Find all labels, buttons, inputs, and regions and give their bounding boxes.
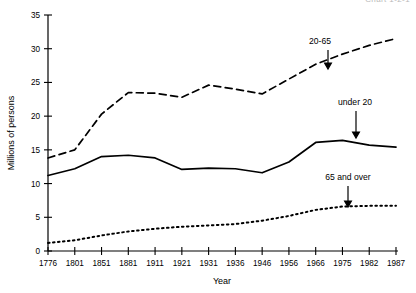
x-axis-tick-label: 1966 <box>307 259 326 268</box>
series-line-under-20 <box>48 140 396 175</box>
line-chart: 05101520253035 1776180118511881191119211… <box>0 0 416 293</box>
x-axis-tick-label: 1851 <box>92 259 111 268</box>
x-axis-tick-label: 1975 <box>333 259 352 268</box>
chart-container: Chart 1-2-1 05101520253035 1776180118511… <box>0 0 416 293</box>
x-axis-tick-label: 1801 <box>66 259 85 268</box>
x-axis-tick-label: 1911 <box>146 259 164 268</box>
x-axis-title: Year <box>213 276 231 286</box>
x-axis-tick-label: 1776 <box>39 259 58 268</box>
y-axis-tick-label: 5 <box>35 213 40 222</box>
x-axis-tick-label: 1921 <box>173 259 192 268</box>
y-axis-tick-label: 0 <box>35 247 40 256</box>
y-axis: 05101520253035 <box>31 11 52 256</box>
annotations-layer: 20-65under 2065 and over <box>309 36 372 207</box>
cut-off-caption: Chart 1-2-1 <box>365 0 410 2</box>
x-axis-tick-label: 1931 <box>200 259 219 268</box>
annotation-label-65-and-over: 65 and over <box>325 172 371 182</box>
annotation-label-under-20: under 20 <box>338 97 372 107</box>
y-axis-tick-label: 15 <box>31 146 41 155</box>
y-axis-tick-label: 25 <box>31 78 41 87</box>
x-axis-tick-label: 1982 <box>360 259 379 268</box>
x-axis-tick-label: 1936 <box>226 259 245 268</box>
series-line-65-and-over <box>48 206 396 243</box>
y-axis-tick-label: 20 <box>31 112 41 121</box>
y-axis-tick-label: 10 <box>31 180 41 189</box>
axis-titles: YearMillions of persons <box>6 95 231 286</box>
annotation-arrow-65-and-over <box>345 186 352 207</box>
annotation-arrow-under-20 <box>353 111 360 138</box>
x-axis-tick-label: 1956 <box>280 259 299 268</box>
y-axis-tick-label: 35 <box>31 11 41 20</box>
series-layer <box>48 39 396 243</box>
y-axis-title: Millions of persons <box>6 95 16 170</box>
x-axis-tick-label: 1987 <box>387 259 406 268</box>
annotation-label-20-65: 20-65 <box>309 36 331 46</box>
x-axis: 1776180118511881191119211931193619461956… <box>39 247 406 268</box>
y-axis-tick-label: 30 <box>31 45 41 54</box>
x-axis-tick-label: 1881 <box>119 259 138 268</box>
x-axis-tick-label: 1946 <box>253 259 272 268</box>
annotation-arrow-20-65 <box>325 50 332 69</box>
